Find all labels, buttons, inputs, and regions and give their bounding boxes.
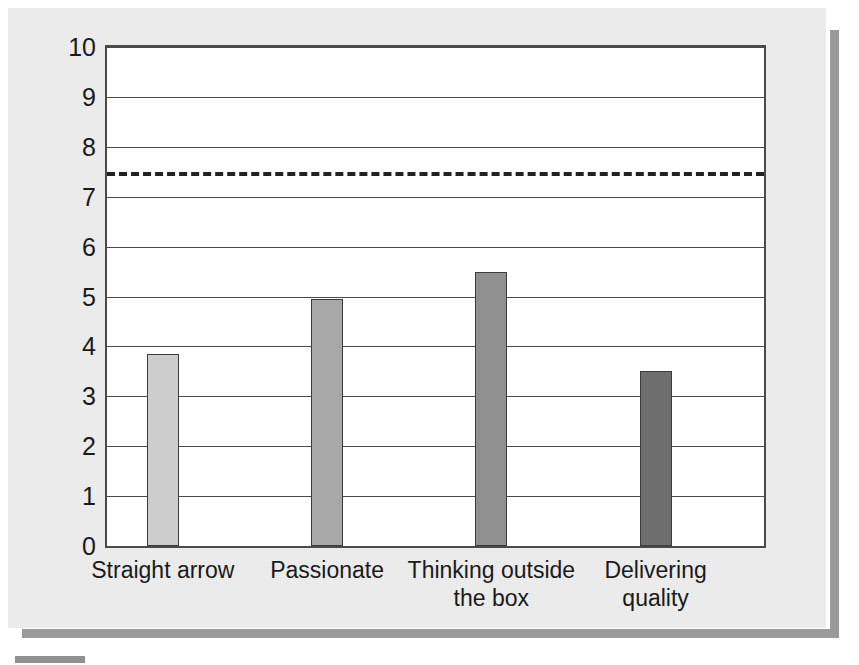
- y-axis-tick-label: 3: [50, 384, 96, 409]
- bar: [640, 371, 672, 546]
- scan-edge-shadow-right: [830, 30, 839, 630]
- plot-area: [107, 47, 764, 546]
- gridline: [107, 47, 764, 48]
- y-axis-tick-label: 4: [50, 334, 96, 359]
- gridline: [107, 297, 764, 298]
- y-axis-tick-label: 2: [50, 434, 96, 459]
- y-axis-tick-labels: 109876543210: [48, 45, 96, 548]
- x-axis-category-labels: Straight arrowPassionateThinking outside…: [105, 556, 766, 626]
- x-axis-category-label: Passionate: [270, 556, 384, 584]
- chart-plot-frame: [105, 45, 766, 548]
- bar: [475, 272, 507, 546]
- y-axis-tick-label: 1: [50, 484, 96, 509]
- gridline: [107, 197, 764, 198]
- y-axis-tick-label: 10: [50, 35, 96, 60]
- gridline: [107, 346, 764, 347]
- chart-page: 109876543210 Straight arrowPassionateThi…: [0, 0, 859, 665]
- gridline: [107, 147, 764, 148]
- gridline: [107, 97, 764, 98]
- x-axis-category-label: Delivering quality: [604, 556, 706, 612]
- y-axis-tick-label: 6: [50, 234, 96, 259]
- y-axis-tick-label: 7: [50, 184, 96, 209]
- y-axis-tick-label: 0: [50, 534, 96, 559]
- x-axis-category-label: Thinking outside the box: [408, 556, 576, 612]
- reference-line: [107, 172, 764, 176]
- x-axis-category-label: Straight arrow: [91, 556, 234, 584]
- gridline: [107, 247, 764, 248]
- y-axis-tick-label: 8: [50, 134, 96, 159]
- y-axis-tick-label: 9: [50, 84, 96, 109]
- scan-edge-shadow-bottom: [22, 629, 839, 638]
- page-corner-mark: [15, 656, 85, 663]
- y-axis-tick-label: 5: [50, 284, 96, 309]
- bar: [147, 354, 179, 546]
- bar: [311, 299, 343, 546]
